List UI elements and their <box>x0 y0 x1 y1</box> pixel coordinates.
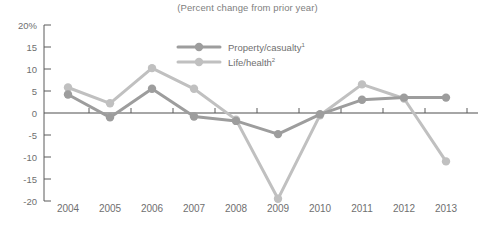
x-axis-tick-label: 2009 <box>267 203 290 214</box>
data-point <box>190 112 198 120</box>
legend-footnote-marker: 1 <box>301 42 305 48</box>
x-axis-tick-label: 2013 <box>435 203 458 214</box>
data-point <box>190 85 198 93</box>
data-point <box>148 85 156 93</box>
y-axis-tick-label: 20% <box>18 20 38 31</box>
data-point <box>274 195 282 203</box>
series-line-life-health <box>68 68 446 199</box>
legend-swatch-dot <box>195 43 203 51</box>
y-axis-tick-label: 15 <box>26 42 37 53</box>
data-point <box>274 130 282 138</box>
data-point <box>442 157 450 165</box>
data-point <box>400 93 408 101</box>
data-point <box>442 93 450 101</box>
data-point <box>106 99 114 107</box>
legend-label: Property/casualty1 <box>228 42 305 53</box>
line-chart: 20%151050-5-10-15-2020042005200620072008… <box>0 0 495 233</box>
data-point <box>148 64 156 72</box>
legend-swatch-dot <box>195 58 203 66</box>
x-axis-tick-label: 2005 <box>99 203 122 214</box>
data-point <box>64 90 72 98</box>
data-point <box>358 96 366 104</box>
x-axis-tick-label: 2004 <box>57 203 80 214</box>
x-axis-tick-label: 2011 <box>351 203 373 214</box>
chart-container: (Percent change from prior year) 20%1510… <box>0 0 495 233</box>
x-axis-tick-label: 2010 <box>309 203 332 214</box>
y-axis-tick-label: -20 <box>23 196 37 207</box>
y-axis-tick-label: -5 <box>29 130 37 141</box>
x-axis-tick-label: 2007 <box>183 203 206 214</box>
x-axis-tick-label: 2008 <box>225 203 248 214</box>
data-point <box>232 117 240 125</box>
y-axis-tick-label: -10 <box>23 152 37 163</box>
x-axis-tick-label: 2012 <box>393 203 416 214</box>
data-point <box>316 110 324 118</box>
y-axis-tick-label: 0 <box>32 108 37 119</box>
y-axis-tick-label: -15 <box>23 174 37 185</box>
data-point <box>106 113 114 121</box>
y-axis-tick-label: 10 <box>26 64 37 75</box>
x-axis-tick-label: 2006 <box>141 203 164 214</box>
y-axis-tick-label: 5 <box>32 86 37 97</box>
legend-label: Life/health2 <box>228 57 276 68</box>
legend-footnote-marker: 2 <box>272 57 276 63</box>
data-point <box>358 80 366 88</box>
